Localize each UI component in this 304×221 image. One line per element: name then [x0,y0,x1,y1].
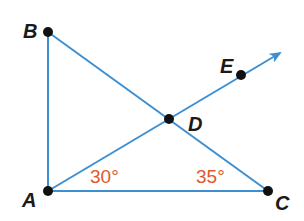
label-a: A [21,189,36,211]
point-b [43,27,53,37]
label-d: D [188,113,202,135]
point-e [236,70,246,80]
segment-bc [48,32,268,191]
geometry-diagram: A B C D E 30° 35° [0,0,304,221]
point-c [263,186,273,196]
label-e: E [220,55,234,77]
angle-label-a: 30° [90,166,119,187]
label-c: C [275,192,290,214]
point-d [164,114,174,124]
point-a [43,186,53,196]
angle-label-c: 35° [196,166,225,187]
label-b: B [23,20,37,42]
